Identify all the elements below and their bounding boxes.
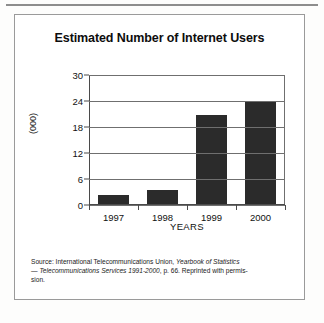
x-tick-mark — [285, 205, 286, 210]
scanned-page: Estimated Number of Internet Users (000)… — [0, 0, 324, 323]
figure-box: Estimated Number of Internet Users (000)… — [14, 14, 305, 300]
y-axis-title: (000) — [28, 118, 38, 134]
y-tick-label: 6 — [78, 174, 83, 185]
gridline — [89, 101, 285, 102]
plot-area: (000) 06121824301997199819992000 YEARS — [15, 59, 306, 249]
bar — [196, 115, 226, 204]
y-tick-mark — [84, 127, 89, 128]
y-tick-label: 0 — [78, 200, 83, 211]
source-line1-prefix: Source: International Telecommunications… — [31, 258, 176, 265]
source-line2-italic: Telecommunications Services 1991-2000 — [39, 267, 159, 274]
bar — [147, 190, 177, 204]
gridline — [89, 75, 285, 76]
page-top-rule — [6, 4, 318, 6]
x-tick-mark — [187, 205, 188, 210]
x-axis-title: YEARS — [89, 221, 285, 232]
source-line2-suffix: , p. 66. Reprinted with permis- — [160, 267, 248, 274]
source-note: Source: International Telecommunications… — [31, 257, 293, 285]
y-tick-label: 30 — [72, 70, 83, 81]
y-tick-label: 12 — [72, 148, 83, 159]
y-tick-label: 24 — [72, 96, 83, 107]
source-line3: sion. — [31, 276, 45, 283]
x-tick-mark — [89, 205, 90, 210]
gridline — [89, 153, 285, 154]
y-tick-label: 18 — [72, 122, 83, 133]
bar-series — [89, 75, 285, 205]
source-line1-italic: Yearbook of Statistics — [176, 258, 239, 265]
gridline — [89, 179, 285, 180]
y-tick-mark — [84, 179, 89, 180]
bar — [98, 195, 128, 204]
y-tick-mark — [84, 101, 89, 102]
y-tick-mark — [84, 75, 89, 76]
gridline — [89, 127, 285, 128]
chart-title: Estimated Number of Internet Users — [15, 31, 304, 45]
y-tick-mark — [84, 153, 89, 154]
plot-canvas: 06121824301997199819992000 — [89, 75, 285, 205]
x-tick-mark — [138, 205, 139, 210]
x-tick-mark — [236, 205, 237, 210]
